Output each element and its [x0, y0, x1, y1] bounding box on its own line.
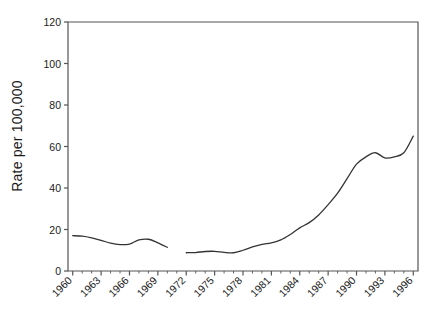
x-tick-label: 1978 [219, 274, 244, 299]
x-tick-label: 1966 [106, 274, 131, 299]
y-tick-label: 40 [49, 182, 61, 194]
x-tick-label: 1984 [276, 274, 301, 299]
x-tick-label: 1960 [49, 274, 74, 299]
data-series-line [73, 136, 414, 253]
x-tick-label: 1987 [305, 274, 330, 299]
x-tick-label: 1981 [248, 274, 273, 299]
x-axis-ticks: 1960196319661969197219751978198119841987… [49, 271, 415, 299]
y-tick-label: 60 [49, 141, 61, 153]
x-tick-label: 1996 [390, 274, 415, 299]
x-tick-label: 1972 [163, 274, 188, 299]
chart-figure: Rate per 100,000 020406080100120 1960196… [0, 0, 437, 317]
series-line-segment [186, 136, 413, 253]
x-tick-label: 1975 [191, 274, 216, 299]
x-tick-label: 1993 [361, 274, 386, 299]
plot-frame [68, 22, 418, 271]
plot-axes [68, 22, 418, 271]
line-chart-plot: 020406080100120 196019631966196919721975… [0, 0, 437, 317]
y-tick-label: 80 [49, 99, 61, 111]
y-tick-label: 20 [49, 224, 61, 236]
y-tick-label: 120 [43, 16, 61, 28]
series-line-segment [73, 236, 168, 248]
x-tick-label: 1963 [78, 274, 103, 299]
x-tick-label: 1990 [333, 274, 358, 299]
y-tick-label: 0 [55, 265, 61, 277]
x-tick-label: 1969 [134, 274, 159, 299]
y-axis-ticks: 020406080100120 [43, 16, 68, 277]
y-tick-label: 100 [43, 58, 61, 70]
